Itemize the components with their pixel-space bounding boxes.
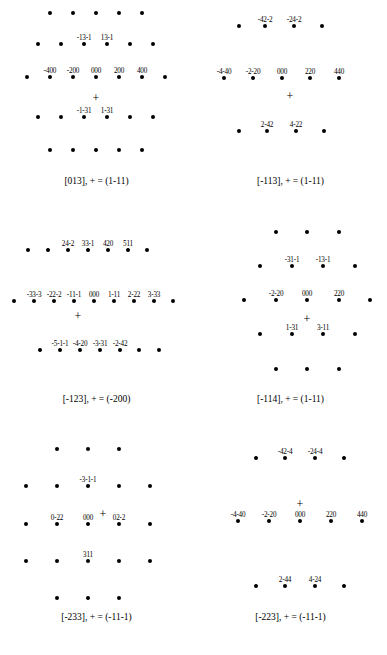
- spot-index-label: -24-4: [308, 448, 323, 456]
- diffraction-spot: [55, 596, 59, 600]
- origin-plus-marker: +: [93, 92, 100, 104]
- diffraction-spot: [283, 584, 287, 588]
- spot-index-label: -4-20: [73, 340, 88, 348]
- diffraction-spot: [98, 348, 102, 352]
- panel-caption: [-114], + = (1-11): [194, 394, 387, 404]
- diffraction-spot: [274, 298, 278, 302]
- diffraction-spot: [251, 76, 255, 80]
- diffraction-spot: [82, 42, 86, 46]
- diffraction-spot: [94, 11, 98, 15]
- diffraction-spot: [140, 75, 144, 79]
- spot-index-label: 13-1: [101, 34, 113, 42]
- diffraction-spot: [237, 24, 241, 28]
- diffraction-spot: [94, 75, 98, 79]
- panel-caption: [-223], + = (-11-1): [194, 612, 387, 622]
- spot-index-label: 2-22: [128, 291, 140, 299]
- diffraction-spot: [313, 584, 317, 588]
- spot-index-label: 24-2: [62, 240, 74, 248]
- diffraction-spot: [86, 596, 90, 600]
- diffraction-spot: [342, 456, 346, 460]
- diffraction-spot: [48, 148, 52, 152]
- spot-index-label: 4-24: [309, 576, 321, 584]
- diffraction-spot: [117, 522, 121, 526]
- diffraction-spot: [148, 484, 152, 488]
- diffraction-spot: [337, 230, 341, 234]
- spot-index-label: -31-1: [285, 256, 300, 264]
- spot-index-label: -2-20: [262, 511, 277, 519]
- spot-index-label: 0-22: [51, 514, 63, 522]
- spot-index-label: 1-31: [101, 107, 113, 115]
- diffraction-spot: [236, 519, 240, 523]
- spot-index-label: 511: [123, 240, 133, 248]
- diffraction-spot: [148, 522, 152, 526]
- spot-index-label: 440: [357, 511, 367, 519]
- diffraction-spot: [337, 76, 341, 80]
- diffraction-spot: [86, 248, 90, 252]
- diffraction-spot: [12, 299, 16, 303]
- diffraction-spot: [337, 298, 341, 302]
- diffraction-spot: [132, 299, 136, 303]
- origin-plus-marker: +: [75, 310, 82, 322]
- diffraction-spot: [55, 522, 59, 526]
- origin-plus-marker: +: [100, 508, 107, 520]
- origin-plus-marker: +: [304, 313, 311, 325]
- diffraction-spot: [263, 24, 267, 28]
- diffraction-spot: [152, 299, 156, 303]
- spot-index-label: -4-40: [231, 511, 246, 519]
- diffraction-spot: [38, 348, 42, 352]
- spot-index-label: -24-2: [287, 16, 302, 24]
- panel-caption: [-123], + = (-200): [0, 394, 193, 404]
- diffraction-panel-panel-223: -42-4-24-4-4-40-2-200002204402-444-24+[-…: [194, 436, 387, 654]
- spot-index-label: -400: [44, 67, 56, 75]
- spot-index-label: 220: [305, 68, 315, 76]
- diffraction-spot: [329, 519, 333, 523]
- spot-index-label: -2-20: [269, 290, 284, 298]
- diffraction-spot: [117, 447, 121, 451]
- spot-index-label: -42-4: [278, 448, 293, 456]
- diffraction-spot: [305, 367, 309, 371]
- diffraction-spot: [148, 559, 152, 563]
- diffraction-spot: [71, 11, 75, 15]
- diffraction-spot: [321, 264, 325, 268]
- diffraction-spot: [265, 129, 269, 133]
- diffraction-spot: [254, 456, 258, 460]
- spot-index-label: -13-1: [77, 34, 92, 42]
- diffraction-plot: -42-4-24-4-4-40-2-200002204402-444-24+: [194, 436, 387, 616]
- diffraction-spot: [151, 115, 155, 119]
- spot-index-label: -13-1: [316, 256, 331, 264]
- diffraction-spot: [274, 367, 278, 371]
- diffraction-spot: [117, 484, 121, 488]
- panel-caption: [-113], + = (1-11): [194, 176, 387, 186]
- spot-index-label: 000: [295, 511, 305, 519]
- diffraction-spot: [55, 447, 59, 451]
- spot-index-label: 1-11: [108, 291, 120, 299]
- diffraction-spot: [294, 129, 298, 133]
- diffraction-spot: [274, 230, 278, 234]
- diffraction-plot: -31-1-13-1-2-200002201-313-11+: [194, 218, 387, 398]
- diffraction-spot: [117, 596, 121, 600]
- diffraction-spot: [36, 42, 40, 46]
- diffraction-spot: [86, 559, 90, 563]
- diffraction-spot: [48, 11, 52, 15]
- diffraction-spot: [71, 75, 75, 79]
- diffraction-spot: [24, 559, 28, 563]
- diffraction-plot: -3-1-10-2200002-2311+: [0, 436, 193, 616]
- diffraction-panel-panel-233: -3-1-10-2200002-2311+[-233], + = (-11-1): [0, 436, 193, 654]
- spot-index-label: -1-31: [77, 107, 92, 115]
- diffraction-spot: [46, 248, 50, 252]
- spot-index-label: -33-3: [27, 291, 42, 299]
- diffraction-spot: [368, 298, 372, 302]
- spot-index-label: -22-2: [47, 291, 62, 299]
- diffraction-spot: [126, 248, 130, 252]
- diffraction-spot: [237, 129, 241, 133]
- diffraction-spot: [267, 519, 271, 523]
- spot-index-label: -2-42: [113, 340, 128, 348]
- diffraction-spot: [24, 484, 28, 488]
- diffraction-spot: [26, 248, 30, 252]
- diffraction-spot: [94, 148, 98, 152]
- spot-index-label: 1-31: [286, 324, 298, 332]
- spot-index-label: 311: [83, 551, 93, 559]
- panel-caption: [013], + = (1-11): [0, 176, 193, 186]
- spot-index-label: 3-11: [317, 324, 329, 332]
- spot-index-label: -4-40: [217, 68, 232, 76]
